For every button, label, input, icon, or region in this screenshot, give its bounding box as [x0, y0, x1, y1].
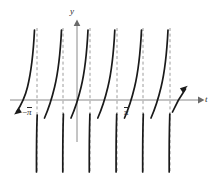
tangent-branch	[63, 114, 64, 172]
tick-neg-pi-symbol: π	[27, 107, 32, 117]
tangent-branch	[45, 30, 62, 118]
y-axis-label: y	[70, 7, 74, 16]
tangent-branch	[89, 114, 90, 172]
tangent-branch	[116, 114, 117, 172]
tangent-curve-group	[14, 30, 188, 172]
tick-pi-symbol: π	[124, 107, 129, 117]
tangent-branch	[71, 30, 88, 118]
t-axis-arrowhead	[198, 97, 205, 104]
y-axis-arrowhead	[74, 20, 81, 27]
tangent-branch	[125, 30, 142, 118]
tangent-branch	[143, 114, 144, 172]
y-axis	[74, 20, 81, 143]
plot-canvas	[0, 0, 217, 180]
t-axis	[10, 97, 205, 104]
tangent-branch	[169, 114, 170, 172]
t-axis-label: t	[205, 95, 208, 104]
tangent-graph-figure: y t −π π	[0, 0, 217, 180]
tick-label-pi: π	[124, 107, 129, 117]
tick-label-neg-pi: −π	[22, 107, 32, 117]
tangent-branch	[151, 30, 168, 118]
tangent-branch	[36, 115, 37, 172]
tangent-branch	[98, 30, 115, 118]
